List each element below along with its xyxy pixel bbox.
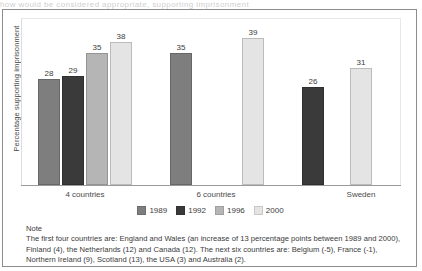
bar: 35 (86, 53, 108, 185)
x-axis-tick-label: 6 countries (196, 190, 235, 199)
note-block: Note The first four countries are: Engla… (26, 224, 404, 266)
bar-value-label: 28 (45, 69, 54, 78)
bar-value-label: 39 (249, 28, 258, 37)
legend-entry: 1992 (176, 206, 206, 215)
note-heading: Note (26, 224, 404, 234)
bar-value-label: 29 (69, 66, 78, 75)
bar: 29 (62, 76, 84, 185)
x-axis-tick-label: Sweden (347, 190, 376, 199)
bar: 26 (302, 87, 324, 185)
legend-label: 1996 (227, 206, 245, 215)
bar-value-label: 35 (177, 43, 186, 52)
bar: 28 (38, 79, 60, 185)
legend-swatch (254, 206, 263, 215)
x-axis-tick-label: 4 countries (65, 190, 104, 199)
cropped-text-line: how would be considered appropriate, sup… (0, 0, 422, 9)
bar-chart: Percentage supporting imprisonment 28293… (3, 12, 418, 207)
bar: 38 (110, 42, 132, 185)
bar-value-label: 38 (117, 32, 126, 41)
bar: 39 (242, 38, 264, 185)
legend-swatch (215, 206, 224, 215)
bars-layer: 2829353835392631 (22, 19, 400, 185)
bar-value-label: 31 (357, 58, 366, 67)
bar-value-label: 35 (93, 43, 102, 52)
figure-container: Percentage supporting imprisonment 28293… (2, 9, 417, 267)
y-axis-title: Percentage supporting imprisonment (12, 14, 21, 164)
x-axis-line (21, 185, 401, 186)
legend-entry: 1996 (215, 206, 245, 215)
legend-label: 1989 (149, 206, 167, 215)
note-body: The first four countries are: England an… (26, 234, 404, 265)
bar: 31 (350, 68, 372, 185)
legend-swatch (137, 206, 146, 215)
chart-legend: 1989199219962000 (3, 206, 418, 215)
legend-label: 2000 (266, 206, 284, 215)
bar: 35 (170, 53, 192, 185)
bar-value-label: 26 (309, 77, 318, 86)
legend-entry: 1989 (137, 206, 167, 215)
legend-label: 1992 (188, 206, 206, 215)
legend-swatch (176, 206, 185, 215)
legend-entry: 2000 (254, 206, 284, 215)
